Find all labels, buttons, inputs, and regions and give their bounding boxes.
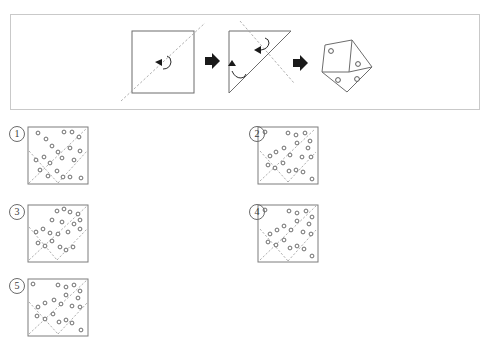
option-3-number-label[interactable]: 3 xyxy=(9,204,25,220)
option-5-number: 5 xyxy=(9,278,25,294)
option-5[interactable] xyxy=(28,279,88,336)
option-1-number-label[interactable]: 1 xyxy=(9,126,25,142)
option-2-number: 2 xyxy=(249,126,265,142)
prompt-diagram xyxy=(0,0,491,339)
step-2-triangle-with-second-fold-line xyxy=(228,21,294,93)
option-4[interactable] xyxy=(258,205,318,262)
punched-hole xyxy=(356,62,361,67)
option-2-number-label[interactable]: 2 xyxy=(249,126,265,142)
puzzle-page: 1 2 3 4 5 xyxy=(0,0,491,339)
step-1-square-with-diagonal-fold-line xyxy=(121,23,205,101)
option-2[interactable] xyxy=(258,127,318,184)
punched-hole xyxy=(336,78,341,83)
option-1-number: 1 xyxy=(9,126,25,142)
option-4-number-label[interactable]: 4 xyxy=(249,204,265,220)
option-1[interactable] xyxy=(28,127,88,184)
option-3[interactable] xyxy=(28,205,88,262)
option-3-number: 3 xyxy=(9,204,25,220)
arrow-step2-to-step3 xyxy=(293,55,308,71)
arrow-step1-to-step2 xyxy=(205,53,220,69)
option-5-number-label[interactable]: 5 xyxy=(9,278,25,294)
option-4-number: 4 xyxy=(249,204,265,220)
step-3-folded-polygon-with-punched-holes xyxy=(322,40,372,92)
punched-hole xyxy=(355,77,360,82)
punched-hole xyxy=(329,49,334,54)
step-2-triangle xyxy=(229,31,291,93)
step-3-polygon-outline xyxy=(322,40,372,92)
